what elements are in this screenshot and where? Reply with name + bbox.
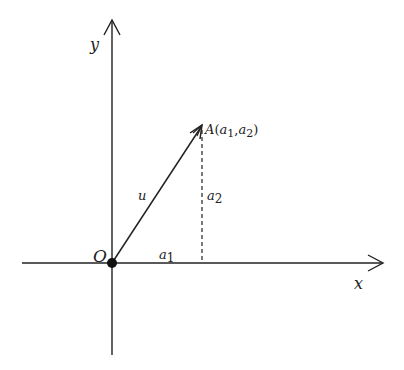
origin-dot: [107, 258, 117, 268]
origin-label: O: [93, 246, 107, 266]
y-axis: [104, 20, 120, 355]
y-axis-label: y: [89, 35, 100, 54]
x-axis-label: x: [354, 274, 363, 293]
vertical-component-label: a2: [207, 188, 222, 206]
vector-u: [112, 125, 202, 263]
vector-diagram: y x O u A(a1,a2) a2 a1: [0, 0, 404, 370]
vector-u-label: u: [138, 188, 146, 203]
point-a-label: A(a1,a2): [204, 122, 258, 140]
